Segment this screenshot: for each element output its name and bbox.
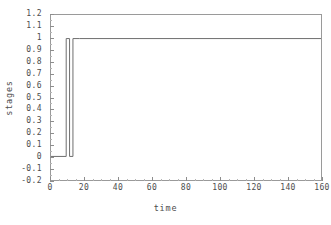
x-tick-label: 120 <box>246 184 262 192</box>
y-minor-tick-mark <box>50 20 52 21</box>
x-minor-tick-mark <box>59 179 60 181</box>
x-minor-tick-mark <box>169 179 170 181</box>
y-axis-tick-labels: -0.2-0.100.10.20.30.40.50.60.70.80.911.1… <box>0 14 46 181</box>
y-tick-mark <box>50 62 54 63</box>
x-minor-tick-mark <box>178 179 179 181</box>
x-tick-label: 100 <box>212 184 228 192</box>
x-tick-mark <box>152 177 153 181</box>
x-minor-tick-mark <box>246 179 247 181</box>
x-tick-label: 140 <box>280 184 296 192</box>
y-tick-label: 0.5 <box>26 94 42 102</box>
y-tick-label: 0.3 <box>26 117 42 125</box>
x-tick-mark <box>220 177 221 181</box>
x-minor-tick-mark <box>263 179 264 181</box>
y-minor-tick-mark <box>50 127 52 128</box>
x-minor-tick-mark <box>195 179 196 181</box>
x-minor-tick-mark <box>67 179 68 181</box>
y-tick-label: -0.1 <box>21 165 42 173</box>
x-tick-mark <box>84 177 85 181</box>
y-minor-tick-mark <box>50 68 52 69</box>
x-axis-tick-labels: 020406080100120140160 <box>0 184 331 196</box>
y-tick-label: 0.7 <box>26 70 42 78</box>
y-tick-mark <box>50 145 54 146</box>
x-tick-label: 60 <box>147 184 157 192</box>
y-tick-label: 0 <box>37 153 42 161</box>
x-minor-tick-mark <box>212 179 213 181</box>
y-tick-mark <box>50 157 54 158</box>
plot-area <box>50 14 322 181</box>
y-tick-label: 0.9 <box>26 46 42 54</box>
y-tick-mark <box>50 74 54 75</box>
x-tick-mark <box>254 177 255 181</box>
x-axis-title: time <box>0 203 331 213</box>
y-tick-mark <box>50 98 54 99</box>
y-tick-mark <box>50 109 54 110</box>
y-tick-mark <box>50 14 54 15</box>
y-tick-label: 0.8 <box>26 58 42 66</box>
x-tick-mark <box>50 177 51 181</box>
y-tick-label: 1.2 <box>26 10 42 18</box>
chart-figure: stages -0.2-0.100.10.20.30.40.50.60.70.8… <box>0 0 331 225</box>
x-minor-tick-mark <box>305 179 306 181</box>
y-minor-tick-mark <box>50 44 52 45</box>
x-tick-label: 80 <box>181 184 191 192</box>
x-minor-tick-mark <box>203 179 204 181</box>
y-tick-label: 0.1 <box>26 141 42 149</box>
y-tick-label: 1 <box>37 34 42 42</box>
x-minor-tick-mark <box>101 179 102 181</box>
x-minor-tick-mark <box>280 179 281 181</box>
y-tick-label: 0.2 <box>26 129 42 137</box>
y-minor-tick-mark <box>50 163 52 164</box>
x-minor-tick-mark <box>229 179 230 181</box>
x-minor-tick-mark <box>144 179 145 181</box>
x-minor-tick-mark <box>127 179 128 181</box>
x-minor-tick-mark <box>271 179 272 181</box>
x-minor-tick-mark <box>76 179 77 181</box>
y-tick-mark <box>50 181 54 182</box>
y-minor-tick-mark <box>50 92 52 93</box>
x-tick-mark <box>186 177 187 181</box>
x-minor-tick-mark <box>161 179 162 181</box>
y-minor-tick-mark <box>50 151 52 152</box>
data-series-stages <box>51 39 321 157</box>
data-layer <box>51 15 321 180</box>
y-minor-tick-mark <box>50 103 52 104</box>
y-minor-tick-mark <box>50 139 52 140</box>
x-tick-mark <box>118 177 119 181</box>
y-minor-tick-mark <box>50 56 52 57</box>
y-tick-mark <box>50 133 54 134</box>
y-tick-mark <box>50 86 54 87</box>
x-tick-label: 40 <box>113 184 123 192</box>
y-tick-mark <box>50 121 54 122</box>
y-tick-mark <box>50 38 54 39</box>
x-tick-label: 0 <box>47 184 52 192</box>
x-minor-tick-mark <box>135 179 136 181</box>
y-minor-tick-mark <box>50 32 52 33</box>
y-minor-tick-mark <box>50 115 52 116</box>
x-tick-label: 20 <box>79 184 89 192</box>
y-tick-label: 0.6 <box>26 82 42 90</box>
y-tick-label: 0.4 <box>26 105 42 113</box>
x-minor-tick-mark <box>297 179 298 181</box>
y-minor-tick-mark <box>50 80 52 81</box>
y-tick-mark <box>50 50 54 51</box>
y-tick-mark <box>50 26 54 27</box>
x-tick-label: 160 <box>314 184 330 192</box>
x-tick-mark <box>322 177 323 181</box>
x-minor-tick-mark <box>237 179 238 181</box>
y-tick-mark <box>50 169 54 170</box>
x-minor-tick-mark <box>93 179 94 181</box>
y-tick-label: 1.1 <box>26 22 42 30</box>
y-minor-tick-mark <box>50 175 52 176</box>
x-tick-mark <box>288 177 289 181</box>
x-minor-tick-mark <box>110 179 111 181</box>
x-minor-tick-mark <box>314 179 315 181</box>
